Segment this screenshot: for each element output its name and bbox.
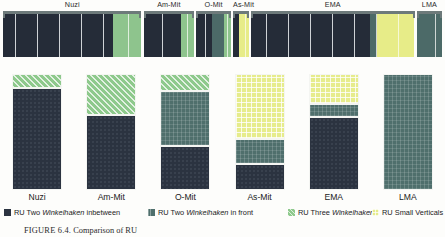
top-strip-bracket-endcap	[247, 11, 249, 18]
top-strip-cell	[191, 14, 194, 57]
top-strip-bracket-endcap	[440, 11, 442, 18]
top-strip-cell	[439, 14, 442, 57]
bar-segment-teal	[160, 91, 210, 146]
bar-segment-yellow	[309, 74, 359, 104]
bar-segment-yellow	[235, 74, 285, 139]
x-axis-label-nuzi: Nuzi	[0, 192, 74, 202]
top-strip-bracket-endcap	[229, 11, 231, 18]
top-strip-group-ema	[251, 11, 415, 57]
bar-column-ema	[309, 74, 359, 190]
bar-column-o-mit	[160, 74, 210, 190]
bar-segment-teal	[309, 104, 359, 117]
top-strip-group-label-o-mit: O-Mit	[196, 0, 231, 9]
top-strip-cell	[228, 14, 231, 57]
bar-segment-green	[86, 74, 136, 115]
top-strip-group-am-mit	[144, 11, 194, 57]
top-strip-bracket-endcap	[413, 11, 415, 18]
legend-swatch-yellow	[372, 209, 379, 216]
top-strip-bracket-endcap	[139, 11, 141, 18]
top-strip-cell	[246, 14, 249, 57]
bar-segment-green	[12, 74, 62, 88]
bar-column-nuzi	[12, 74, 62, 190]
stacked-bar-chart	[0, 74, 445, 190]
bar-column-as-mit	[235, 74, 285, 190]
x-axis-label-am-mit: Am-Mit	[74, 192, 148, 202]
legend-item-ru-two-winkelhaken-in-front[interactable]: RU Two Winkelhaken in front	[148, 208, 253, 217]
figure-caption-text: Comparison of RU	[73, 226, 137, 235]
figure-caption: FIGURE 6.4. Comparison of RU	[24, 226, 137, 235]
figure-caption-label: FIGURE 6.4.	[24, 226, 71, 235]
top-strip-group-label-as-mit: As-Mit	[233, 0, 249, 9]
chart-legend: RU Two Winkelhaken inbetweenRU Two Winke…	[2, 208, 445, 221]
legend-label: RU Two Winkelhaken inbetween	[14, 208, 120, 217]
top-strip-group-label-ema: EMA	[251, 0, 415, 9]
top-strip-group-as-mit	[233, 11, 249, 57]
top-strip-group-label-nuzi: Nuzi	[3, 0, 141, 9]
bar-column-lma	[383, 74, 433, 190]
legend-item-ru-small-verticals[interactable]: RU Small Verticals	[372, 208, 443, 217]
top-strip-chart	[3, 11, 442, 57]
top-strip-cell	[138, 14, 141, 57]
x-axis-label-o-mit: O-Mit	[148, 192, 222, 202]
top-strip-group-lma	[417, 11, 442, 57]
legend-swatch-dark	[4, 209, 11, 216]
legend-item-ru-three-winkelhaken[interactable]: RU Three Winkelhaken	[288, 208, 374, 217]
x-axis-labels: NuziAm-MitO-MitAs-MitEMALMA	[0, 192, 445, 206]
top-strip-cell	[411, 14, 414, 57]
bar-segment-teal	[383, 74, 433, 190]
bar-segment-dark	[235, 164, 285, 190]
x-axis-label-as-mit: As-Mit	[223, 192, 297, 202]
bar-segment-dark	[309, 117, 359, 190]
legend-item-ru-two-winkelhaken-inbetween[interactable]: RU Two Winkelhaken inbetween	[4, 208, 120, 217]
x-axis-label-lma: LMA	[371, 192, 445, 202]
top-strip-group-o-mit	[196, 11, 231, 57]
legend-label: RU Two Winkelhaken in front	[158, 208, 253, 217]
bar-segment-dark	[86, 115, 136, 190]
bar-segment-teal	[235, 139, 285, 165]
x-axis-label-ema: EMA	[297, 192, 371, 202]
legend-swatch-teal	[148, 209, 155, 216]
legend-swatch-green	[288, 209, 295, 216]
top-strip-bracket-endcap	[192, 11, 194, 18]
bar-segment-green	[160, 74, 210, 91]
legend-label: RU Three Winkelhaken	[298, 208, 374, 217]
bar-segment-dark	[12, 88, 62, 190]
bar-segment-dark	[160, 146, 210, 190]
legend-label: RU Small Verticals	[382, 208, 443, 217]
top-strip-group-label-lma: LMA	[417, 0, 442, 9]
top-strip-group-nuzi	[3, 11, 141, 57]
bar-column-am-mit	[86, 74, 136, 190]
top-strip-group-label-am-mit: Am-Mit	[144, 0, 194, 9]
